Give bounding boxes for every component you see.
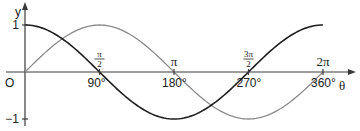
trig-chart: y θ O 90°180°270°360°π2π3π22π1−1 — [0, 0, 360, 131]
x-tick-label-radians: 2π — [316, 54, 330, 69]
svg-text:π: π — [97, 49, 102, 59]
x-tick-label-radians: 3π2 — [244, 49, 254, 69]
x-tick-label-degrees: 90° — [88, 76, 106, 90]
x-tick-label-degrees: 360° — [311, 76, 336, 90]
y-axis-arrow-icon — [22, 2, 28, 10]
x-tick-label-radians: π2 — [95, 49, 105, 69]
svg-text:3π: 3π — [244, 49, 254, 59]
y-axis-label: y — [15, 5, 21, 19]
x-axis-arrow-icon — [348, 69, 356, 75]
y-tick-label: 1 — [12, 18, 19, 32]
svg-text:2: 2 — [246, 59, 251, 69]
x-tick-label-degrees: 270° — [237, 76, 262, 90]
x-tick-label-degrees: 180° — [162, 76, 187, 90]
x-axis-label: θ — [339, 78, 345, 93]
y-tick-label: −1 — [5, 112, 19, 126]
x-tick-label-radians: π — [171, 54, 178, 69]
svg-text:2: 2 — [97, 59, 102, 69]
origin-label: O — [5, 76, 14, 90]
